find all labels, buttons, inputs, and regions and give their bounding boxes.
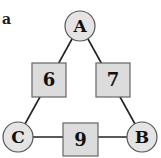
edge-weight-box-cb: 9: [63, 123, 98, 156]
edge-weight-box-ac: 6: [32, 63, 66, 97]
edge-weight-box-ab: 7: [96, 63, 130, 97]
node-b: B: [127, 122, 157, 152]
edge-weight-cb: 9: [74, 129, 87, 150]
edge-weight-ab: 7: [107, 69, 120, 90]
triangle-graph-diagram: 6 7 9 A B C: [0, 0, 161, 158]
edge-weight-ac: 6: [43, 69, 56, 90]
node-b-label: B: [135, 127, 149, 147]
node-a: A: [65, 11, 95, 41]
node-a-label: A: [72, 16, 87, 36]
node-c: C: [3, 122, 33, 152]
node-c-label: C: [11, 127, 25, 147]
